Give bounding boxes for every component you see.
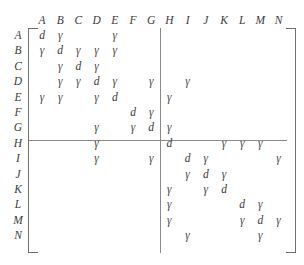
matrix-cell-eh: γ: [160, 90, 178, 105]
matrix-cell-bd: γ: [88, 43, 106, 58]
matrix-cell-mn: γ: [270, 213, 288, 228]
column-header-m: M: [251, 13, 269, 27]
matrix-cell-nm: γ: [251, 228, 269, 243]
matrix-cell-cc: d: [69, 59, 87, 74]
matrix-cell-kk: d: [215, 182, 233, 197]
column-header-d: D: [88, 13, 106, 27]
matrix-cell-ni: γ: [179, 228, 197, 243]
matrix-cell-cb: γ: [51, 59, 69, 74]
column-header-h: H: [160, 13, 178, 27]
column-header-a: A: [33, 13, 51, 27]
row-header-c: C: [10, 59, 26, 74]
row-header-m: M: [10, 213, 26, 228]
column-header-l: L: [233, 13, 251, 27]
matrix-cell-ml: γ: [233, 213, 251, 228]
matrix-cell-kh: γ: [160, 182, 178, 197]
matrix-cell-hm: γ: [251, 136, 269, 151]
row-header-n: N: [10, 228, 26, 243]
matrix-cell-ll: d: [233, 197, 251, 212]
matrix-cell-ee: d: [106, 90, 124, 105]
matrix-cell-be: γ: [106, 43, 124, 58]
row-header-e: E: [10, 90, 26, 105]
matrix-cell-bb: d: [51, 43, 69, 58]
column-header-g: G: [142, 13, 160, 27]
column-header-e: E: [106, 13, 124, 27]
matrix-cells: dγγγdγγγγdγγγdγγγγγγdγdγγγdγγdγγγγγdγγγd…: [33, 28, 295, 253]
row-header-column: ABCDEFGHIJKLMN: [10, 28, 26, 258]
row-header-d: D: [10, 74, 26, 89]
matrix-cell-hd: γ: [88, 136, 106, 151]
matrix-cell-ff: d: [124, 105, 142, 120]
matrix-cell-kj: γ: [197, 182, 215, 197]
matrix-cell-bc: γ: [69, 43, 87, 58]
row-header-j: J: [10, 167, 26, 182]
matrix-figure: ABCDEFGHIJKLMN ABCDEFGHIJKLMN dγγγdγγγγd…: [0, 0, 304, 265]
matrix-cell-jk: γ: [215, 167, 233, 182]
matrix-cell-dc: γ: [69, 74, 87, 89]
matrix-cell-in: γ: [270, 151, 288, 166]
row-header-a: A: [10, 28, 26, 43]
matrix-cell-ij: γ: [197, 151, 215, 166]
matrix-cell-db: γ: [51, 74, 69, 89]
matrix-cell-gd: γ: [88, 120, 106, 135]
matrix-cell-dd: d: [88, 74, 106, 89]
matrix-cell-de: γ: [106, 74, 124, 89]
matrix-cell-dg: γ: [142, 74, 160, 89]
row-header-g: G: [10, 120, 26, 135]
matrix-cell-ed: γ: [88, 90, 106, 105]
column-header-b: B: [51, 13, 69, 27]
matrix-cell-gf: γ: [124, 120, 142, 135]
matrix-cell-gh: γ: [160, 120, 178, 135]
matrix-cell-ji: γ: [179, 167, 197, 182]
column-header-k: K: [215, 13, 233, 27]
column-header-c: C: [69, 13, 87, 27]
matrix-cell-id: γ: [88, 151, 106, 166]
column-header-i: I: [179, 13, 197, 27]
column-header-row: ABCDEFGHIJKLMN: [33, 13, 295, 27]
matrix-cell-lh: γ: [160, 197, 178, 212]
matrix-cell-cd: γ: [88, 59, 106, 74]
column-header-j: J: [197, 13, 215, 27]
matrix-cell-hh: d: [160, 136, 178, 151]
matrix-cell-mm: d: [251, 213, 269, 228]
matrix-cell-eb: γ: [51, 90, 69, 105]
row-header-h: H: [10, 136, 26, 151]
matrix-cell-mh: γ: [160, 213, 178, 228]
column-header-n: N: [270, 13, 288, 27]
matrix-cell-di: γ: [179, 74, 197, 89]
matrix-cell-ea: γ: [33, 90, 51, 105]
matrix-cell-ae: γ: [106, 28, 124, 43]
matrix-cell-ab: γ: [51, 28, 69, 43]
row-header-i: I: [10, 151, 26, 166]
column-header-f: F: [124, 13, 142, 27]
row-header-l: L: [10, 197, 26, 212]
matrix-cell-lm: γ: [251, 197, 269, 212]
matrix-cell-ii: d: [179, 151, 197, 166]
matrix-cell-aa: d: [33, 28, 51, 43]
matrix-cell-ba: γ: [33, 43, 51, 58]
row-header-k: K: [10, 182, 26, 197]
matrix-cell-jj: d: [197, 167, 215, 182]
matrix-cell-ig: γ: [142, 151, 160, 166]
row-header-f: F: [10, 105, 26, 120]
row-header-b: B: [10, 43, 26, 58]
matrix-cell-hl: γ: [233, 136, 251, 151]
matrix-cell-gg: d: [142, 120, 160, 135]
matrix-cell-hk: γ: [215, 136, 233, 151]
matrix-cell-fg: γ: [142, 105, 160, 120]
